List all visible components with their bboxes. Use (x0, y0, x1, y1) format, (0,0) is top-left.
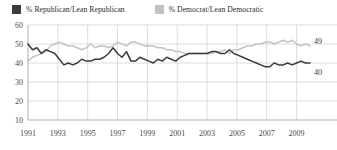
chart-svg: 605040302010 199119931995199719992001200… (0, 16, 337, 150)
svg-text:49: 49 (314, 37, 322, 46)
chart-container: % Republican/Lean Republican % Democrat/… (0, 0, 337, 150)
svg-text:40: 40 (15, 59, 23, 68)
svg-text:30: 30 (15, 78, 23, 87)
svg-text:2007: 2007 (259, 129, 275, 138)
axis-lines (28, 25, 337, 120)
legend-label-republican: % Republican/Lean Republican (26, 5, 125, 14)
svg-text:1995: 1995 (80, 129, 96, 138)
legend-label-democrat: % Democrat/Lean Democratic (169, 5, 264, 14)
x-tick-labels: 1991199319951997199920012003200520072009 (20, 129, 305, 138)
svg-text:2001: 2001 (169, 129, 185, 138)
svg-text:2005: 2005 (229, 129, 245, 138)
svg-text:2003: 2003 (199, 129, 215, 138)
plot-area: 605040302010 199119931995199719992001200… (0, 16, 337, 150)
end-value-labels: 4940 (314, 37, 322, 77)
legend-swatch-democrat-icon (155, 5, 164, 14)
y-tick-labels: 605040302010 (15, 21, 23, 125)
svg-text:2009: 2009 (289, 129, 305, 138)
svg-text:60: 60 (15, 21, 23, 30)
svg-text:1999: 1999 (139, 129, 155, 138)
svg-text:40: 40 (314, 68, 322, 77)
gridlines (28, 25, 337, 120)
svg-text:20: 20 (15, 97, 23, 106)
legend-entry-republican: % Republican/Lean Republican (12, 5, 125, 14)
svg-text:1997: 1997 (110, 129, 126, 138)
chart-legend: % Republican/Lean Republican % Democrat/… (12, 2, 327, 16)
svg-text:10: 10 (15, 116, 23, 125)
svg-text:50: 50 (15, 40, 23, 49)
svg-text:1991: 1991 (20, 129, 36, 138)
svg-text:1993: 1993 (50, 129, 66, 138)
legend-swatch-republican-icon (12, 5, 21, 14)
legend-entry-democrat: % Democrat/Lean Democratic (155, 5, 264, 14)
